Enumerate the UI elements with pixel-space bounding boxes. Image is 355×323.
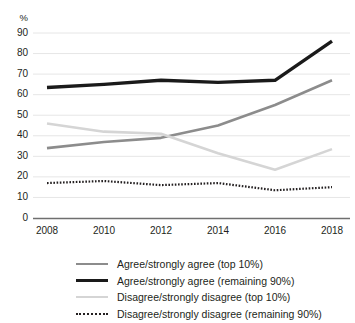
legend-item-2[interactable]: Disagree/strongly disagree (top 10%): [76, 289, 290, 305]
series-line-0: [47, 80, 332, 148]
x-tick-label-2008: 2008: [25, 225, 69, 236]
gridlines: [33, 33, 350, 197]
x-tick-label-2010: 2010: [82, 225, 126, 236]
legend-item-3[interactable]: Disagree/strongly disagree (remaining 90…: [76, 306, 322, 322]
legend-swatch-icon-1: [76, 275, 108, 287]
plot-svg: [0, 0, 355, 250]
y-tick-label-10: 10: [2, 192, 28, 202]
y-tick-label-30: 30: [2, 151, 28, 161]
y-axis-unit-label: %: [2, 13, 28, 23]
plot-area: 9080706050403020100 20082010201220142016…: [0, 0, 355, 250]
legend-label-0: Agree/strongly agree (top 10%): [117, 258, 263, 270]
chart-legend: Agree/strongly agree (top 10%)Agree/stro…: [0, 256, 355, 323]
x-tick-label-2018: 2018: [310, 225, 354, 236]
x-tick-label-2016: 2016: [253, 225, 297, 236]
series-line-3: [47, 181, 332, 190]
legend-item-1[interactable]: Agree/strongly agree (remaining 90%): [76, 273, 294, 289]
y-tick-label-50: 50: [2, 110, 28, 120]
legend-swatch-icon-2: [76, 291, 108, 303]
y-tick-label-90: 90: [2, 28, 28, 38]
y-tick-label-0: 0: [2, 213, 28, 223]
legend-label-2: Disagree/strongly disagree (top 10%): [117, 291, 290, 303]
legend-swatch-icon-3: [76, 308, 108, 320]
legend-item-0[interactable]: Agree/strongly agree (top 10%): [76, 256, 263, 272]
y-tick-label-60: 60: [2, 89, 28, 99]
legend-label-1: Agree/strongly agree (remaining 90%): [117, 275, 294, 287]
legend-swatch-icon-0: [76, 258, 108, 270]
data-series-group: [47, 41, 332, 190]
line-chart: 9080706050403020100 20082010201220142016…: [0, 0, 355, 323]
x-tick-label-2014: 2014: [196, 225, 240, 236]
y-tick-label-70: 70: [2, 69, 28, 79]
y-tick-label-80: 80: [2, 48, 28, 58]
y-tick-label-20: 20: [2, 171, 28, 181]
series-line-1: [47, 41, 332, 87]
x-tick-label-2012: 2012: [139, 225, 183, 236]
legend-label-3: Disagree/strongly disagree (remaining 90…: [117, 308, 322, 320]
y-tick-label-40: 40: [2, 130, 28, 140]
